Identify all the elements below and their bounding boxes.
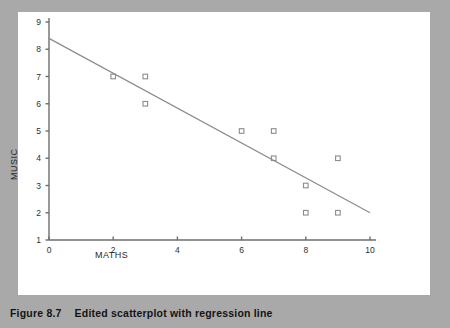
figure-caption-title: Edited scatterplot with regression line <box>75 307 273 319</box>
x-axis-tick-label: 4 <box>175 245 180 255</box>
x-axis-tick-label: 10 <box>365 245 375 255</box>
y-axis-tick-label: 7 <box>36 72 41 82</box>
data-point-marker <box>271 129 276 134</box>
x-axis-tick-label: 0 <box>47 245 52 255</box>
data-point-marker <box>143 101 148 106</box>
data-point-marker <box>304 210 309 215</box>
data-point-marker <box>143 74 148 79</box>
figure-panel: 1234567890246810 MUSIC MATHS <box>18 12 430 295</box>
x-axis-tick-label: 6 <box>239 245 244 255</box>
figure-caption-number: Figure 8.7 <box>10 307 62 319</box>
data-point-marker <box>336 156 341 161</box>
chart-canvas: 1234567890246810 <box>18 12 430 295</box>
y-axis-tick-label: 4 <box>36 153 41 163</box>
y-axis-tick-label: 6 <box>36 99 41 109</box>
y-axis-tick-label: 2 <box>36 208 41 218</box>
scatterplot-chart: 1234567890246810 MUSIC MATHS <box>18 12 430 295</box>
data-point-marker <box>304 183 309 188</box>
data-point-marker <box>111 74 116 79</box>
y-axis-label: MUSIC <box>9 149 19 181</box>
figure-frame: 1234567890246810 MUSIC MATHS Figure 8.7E… <box>0 0 450 328</box>
y-axis-tick-label: 5 <box>36 126 41 136</box>
y-axis-tick-label: 1 <box>36 235 41 245</box>
y-axis-tick-label: 9 <box>36 17 41 27</box>
data-point-marker <box>239 129 244 134</box>
x-axis-tick-label: 8 <box>303 245 308 255</box>
regression-line <box>49 38 370 212</box>
x-axis-label: MATHS <box>95 250 128 260</box>
y-axis-tick-label: 8 <box>36 44 41 54</box>
figure-caption-bar: Figure 8.7Edited scatterplot with regres… <box>0 298 450 328</box>
y-axis-tick-label: 3 <box>36 181 41 191</box>
data-point-marker <box>336 210 341 215</box>
figure-caption: Figure 8.7Edited scatterplot with regres… <box>0 307 273 319</box>
